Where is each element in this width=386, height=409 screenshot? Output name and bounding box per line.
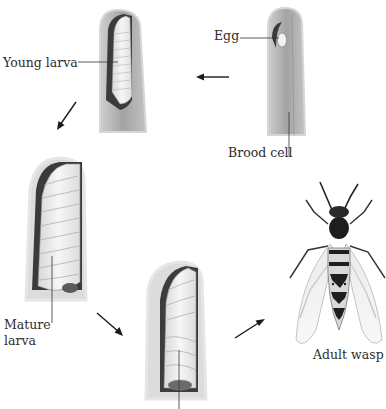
mature-larva-label-line1: Mature <box>4 318 51 332</box>
arrow-young-to-mature-larva <box>57 102 76 130</box>
arrow-mature-larva-to-pupa <box>97 313 123 336</box>
young-larva-illustration <box>100 10 146 132</box>
arrow-pupa-to-adult-wasp <box>235 319 265 338</box>
adult-wasp-label: Adult wasp <box>313 348 384 362</box>
pupa-illustration <box>146 262 206 399</box>
egg-label: Egg <box>214 29 239 43</box>
wasp-life-cycle-diagram: Egg Brood cell Young larva Mature larva … <box>0 0 386 409</box>
brood-cell-label: Brood cell <box>228 146 293 160</box>
egg-shape <box>278 33 287 47</box>
mature-larva-label-line2: larva <box>4 334 36 348</box>
young-larva-label: Young larva <box>3 56 78 70</box>
arrow-egg-to-young-larva <box>196 74 229 81</box>
adult-wasp-illustration <box>290 182 385 343</box>
brood-cell-egg-illustration <box>268 8 305 135</box>
mature-larva-illustration <box>26 158 86 300</box>
